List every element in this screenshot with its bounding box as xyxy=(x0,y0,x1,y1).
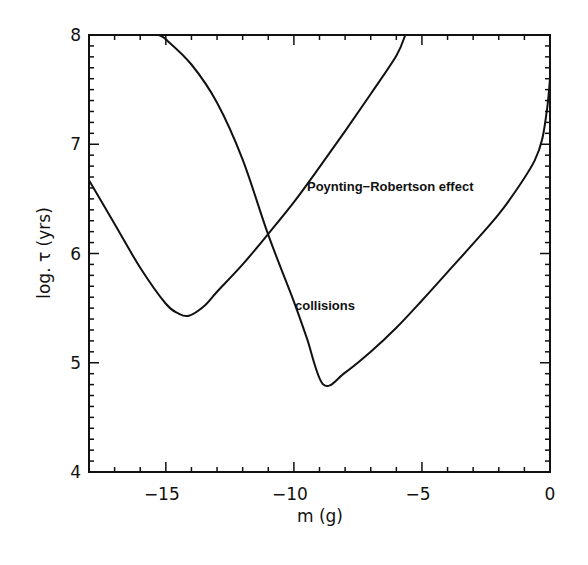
tick-labels: −15−10−5045678 xyxy=(70,25,555,504)
chart: −15−10−5045678 m (g) log. τ (yrs) Poynti… xyxy=(0,0,588,565)
annotation-collisions: collisions xyxy=(295,298,355,313)
collisions-curve xyxy=(158,35,550,386)
plot-frame xyxy=(89,35,550,472)
x-axis-label: m (g) xyxy=(297,506,343,526)
pr-effect-curve xyxy=(89,35,405,316)
x-tick-label: −10 xyxy=(272,484,308,504)
ticks xyxy=(89,35,550,472)
y-tick-label: 7 xyxy=(70,134,81,154)
y-tick-label: 8 xyxy=(70,25,81,45)
y-axis-label: log. τ (yrs) xyxy=(34,207,54,299)
x-tick-label: −5 xyxy=(405,484,430,504)
y-tick-label: 6 xyxy=(70,244,81,264)
x-tick-label: 0 xyxy=(545,484,556,504)
y-tick-label: 4 xyxy=(70,462,81,482)
x-tick-label: −15 xyxy=(144,484,180,504)
annotation-pr-effect: Poynting−Robertson effect xyxy=(307,179,474,194)
y-tick-label: 5 xyxy=(70,353,81,373)
curves xyxy=(89,35,550,386)
